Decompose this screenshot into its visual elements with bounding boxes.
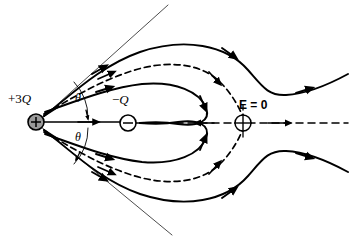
label-negative-charge: −Q bbox=[112, 93, 129, 106]
field-line-canvas bbox=[0, 0, 349, 239]
separatrix-upper-arrow2 bbox=[209, 72, 220, 84]
fan-stub-lower-2 bbox=[44, 132, 58, 140]
field-line-diagram: +3Q −Q E = 0 θ θ bbox=[0, 0, 349, 239]
label-null-point-E: E bbox=[239, 98, 247, 112]
fan-stub-upper-2 bbox=[44, 106, 58, 114]
null-point-marker bbox=[234, 114, 252, 132]
field-line-inner-lower-arrow2 bbox=[200, 136, 206, 150]
label-null-point: E = 0 bbox=[239, 99, 267, 111]
label-positive-charge-symbol: Q bbox=[22, 91, 31, 106]
field-line-outer-upper bbox=[44, 44, 348, 116]
separatrix-lower-arrow2 bbox=[209, 162, 220, 174]
label-null-point-rest: = 0 bbox=[247, 98, 267, 112]
label-positive-charge: +3Q bbox=[8, 92, 31, 105]
charge-marker-negative bbox=[120, 115, 136, 131]
label-positive-charge-prefix: +3 bbox=[8, 91, 22, 106]
charge-marker-positive bbox=[28, 114, 44, 130]
label-angle-theta-bottom: θ bbox=[75, 131, 81, 143]
label-negative-charge-symbol: Q bbox=[119, 92, 128, 107]
field-line-inner-upper-arrow2 bbox=[200, 96, 206, 110]
field-line-outer-lower bbox=[44, 130, 348, 202]
label-angle-theta-top: θ bbox=[75, 92, 81, 104]
